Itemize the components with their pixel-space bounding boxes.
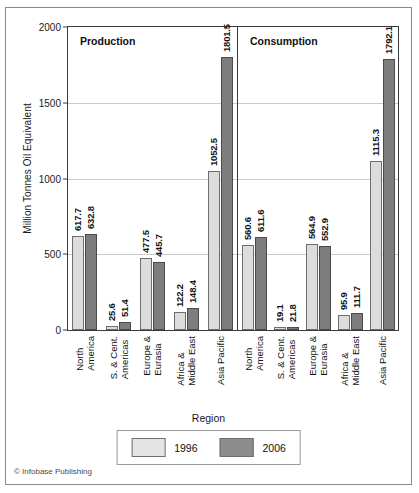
bar-value-label: 560.6 — [241, 217, 252, 240]
bar-value-label: 21.8 — [286, 304, 297, 322]
y-axis-tick-label: 500 — [44, 249, 61, 260]
bar-group: 564.9552.9Europe & Eurasia — [302, 27, 334, 330]
bar-value-label: 1792.1 — [382, 26, 393, 54]
bar-value-label: 95.9 — [337, 293, 348, 311]
x-axis-category-label: Europe & Eurasia — [307, 336, 329, 376]
bar-value-label: 611.6 — [254, 210, 265, 232]
bar-2006[interactable]: 1801.5 — [221, 57, 233, 330]
x-axis-category-label: Asia Pacific — [377, 336, 388, 385]
bar-group: 95.9111.7Africa & Middle East — [334, 27, 366, 330]
bar-1996[interactable]: 1115.3 — [370, 161, 382, 330]
x-axis-category-label: S. & Cent. Americas — [108, 336, 130, 379]
y-axis-title: Million Tonnes Oil Equivalent — [22, 64, 33, 274]
bar-1996[interactable]: 1052.5 — [208, 171, 220, 330]
bar-value-label: 445.7 — [152, 235, 163, 258]
legend-swatch — [131, 438, 165, 457]
chart-figure: Million Tonnes Oil Equivalent 0500100015… — [5, 7, 412, 485]
bar-1996[interactable]: 477.5 — [140, 258, 152, 330]
bar-value-label: 1115.3 — [369, 129, 380, 156]
plot-inner: 0500100015002000Production617.7632.8Nort… — [68, 27, 398, 330]
legend-item-1996[interactable]: 1996 — [131, 438, 197, 457]
bar-value-label: 632.8 — [85, 206, 96, 229]
bar-value-label: 552.9 — [318, 218, 329, 241]
bar-1996[interactable]: 19.1 — [274, 327, 286, 330]
bar-2006[interactable]: 111.7 — [351, 313, 363, 330]
bar-2006[interactable]: 51.4 — [119, 322, 131, 330]
x-axis-category-label: S. & Cent. Americas — [275, 336, 297, 379]
bar-value-label: 1801.5 — [220, 24, 231, 52]
legend-label: 2006 — [263, 442, 286, 454]
bar-value-label: 19.1 — [273, 304, 284, 322]
plot-area: 0500100015002000Production617.7632.8Nort… — [67, 26, 399, 331]
bar-group: 19.121.8S. & Cent. Americas — [270, 27, 302, 330]
bar-group: 25.651.4S. & Cent. Americas — [102, 27, 136, 330]
bar-value-label: 111.7 — [350, 286, 361, 308]
bar-1996[interactable]: 95.9 — [338, 315, 350, 330]
bar-2006[interactable]: 1792.1 — [383, 59, 395, 331]
x-axis-category-label: North America — [74, 336, 96, 371]
legend-label: 1996 — [174, 442, 197, 454]
x-axis-category-label: Africa & Middle East — [175, 336, 197, 386]
bar-2006[interactable]: 445.7 — [153, 262, 165, 330]
bar-group: 122.2148.4Africa & Middle East — [169, 27, 203, 330]
legend-item-2006[interactable]: 2006 — [220, 438, 286, 457]
legend-swatch — [220, 438, 254, 457]
bar-value-label: 25.6 — [106, 303, 117, 321]
x-axis-title: Region — [6, 412, 411, 424]
bar-value-label: 122.2 — [173, 284, 184, 307]
x-axis-category-label: Africa & Middle East — [339, 336, 361, 386]
bar-1996[interactable]: 25.6 — [106, 326, 118, 330]
bar-2006[interactable]: 611.6 — [255, 237, 267, 330]
y-axis-tick-label: 0 — [55, 325, 61, 336]
y-axis-tick-label: 2000 — [39, 22, 61, 33]
bar-group: 617.7632.8North America — [68, 27, 102, 330]
bar-value-label: 477.5 — [139, 230, 150, 253]
bar-1996[interactable]: 122.2 — [174, 312, 186, 331]
bar-value-label: 1052.5 — [207, 138, 218, 166]
legend: 19962006 — [116, 430, 301, 465]
y-axis-tick-label: 1500 — [39, 97, 61, 108]
x-axis-category-label: Asia Pacific — [215, 336, 226, 385]
x-axis-category-label: North America — [243, 336, 265, 371]
bar-value-label: 617.7 — [72, 209, 83, 232]
bar-group: 1115.31792.1Asia Pacific — [366, 27, 398, 330]
bar-value-label: 148.4 — [186, 280, 197, 303]
x-axis-category-label: Europe & Eurasia — [141, 336, 163, 376]
bar-group: 477.5445.7Europe & Eurasia — [136, 27, 170, 330]
bar-1996[interactable]: 560.6 — [242, 245, 254, 330]
credit-text: © Infobase Publishing — [14, 467, 92, 476]
bar-2006[interactable]: 21.8 — [287, 327, 299, 330]
bar-group: 1052.51801.5Asia Pacific — [203, 27, 237, 330]
bar-1996[interactable]: 617.7 — [72, 236, 84, 330]
bar-value-label: 51.4 — [119, 300, 130, 318]
y-axis-tick-label: 1000 — [39, 173, 61, 184]
bar-2006[interactable]: 552.9 — [319, 246, 331, 330]
bar-2006[interactable]: 632.8 — [85, 234, 97, 330]
bar-2006[interactable]: 148.4 — [187, 308, 199, 330]
bar-group: 560.6611.6North America — [238, 27, 270, 330]
bar-1996[interactable]: 564.9 — [306, 244, 318, 330]
bar-value-label: 564.9 — [305, 217, 316, 240]
